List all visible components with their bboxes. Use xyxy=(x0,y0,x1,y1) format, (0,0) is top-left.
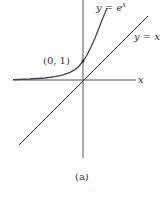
point-label: (0, 1) xyxy=(43,55,70,66)
line-label: y = x xyxy=(133,31,160,42)
point-0-1 xyxy=(82,60,85,63)
curve-label: y = ex xyxy=(95,1,126,13)
figure-plot: (0, 1) y = ex y = x x (a) xyxy=(0,0,168,200)
x-axis-label: x xyxy=(138,74,144,85)
curve-exp xyxy=(13,8,107,80)
figure-caption: (a) xyxy=(75,171,89,182)
